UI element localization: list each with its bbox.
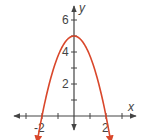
y-tick-label-4: 4 <box>62 45 69 59</box>
y-tick-label-6: 6 <box>62 13 69 27</box>
parabola-graph: 6 4 2 -2 2 y x <box>0 0 141 140</box>
x-axis-label: x <box>127 100 135 114</box>
y-axis-label: y <box>78 1 86 15</box>
y-tick-label-2: 2 <box>62 77 69 91</box>
